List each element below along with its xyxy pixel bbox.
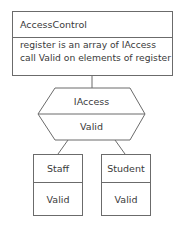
accesscontrol-note-1: register is an array of IAccess [20, 38, 156, 51]
staff-box: Staff Valid [33, 154, 83, 216]
accesscontrol-name: AccessControl [13, 12, 172, 37]
iaccess-operation: Valid [38, 121, 145, 132]
connector-iaccess-staff [58, 140, 68, 154]
student-operation: Valid [102, 183, 150, 215]
accesscontrol-note-2: call Valid on elements of register [20, 51, 171, 64]
student-name: Student [102, 155, 150, 182]
connector-iaccess-student [115, 140, 125, 154]
student-box: Student Valid [101, 154, 151, 216]
accesscontrol-notes: register is an array of IAccess call Val… [13, 38, 172, 76]
staff-name: Staff [34, 155, 82, 182]
staff-operation: Valid [34, 183, 82, 215]
accesscontrol-box: AccessControl register is an array of IA… [12, 11, 173, 76]
iaccess-label-wrap: IAccess Valid [38, 88, 145, 140]
iaccess-name: IAccess [38, 96, 145, 107]
